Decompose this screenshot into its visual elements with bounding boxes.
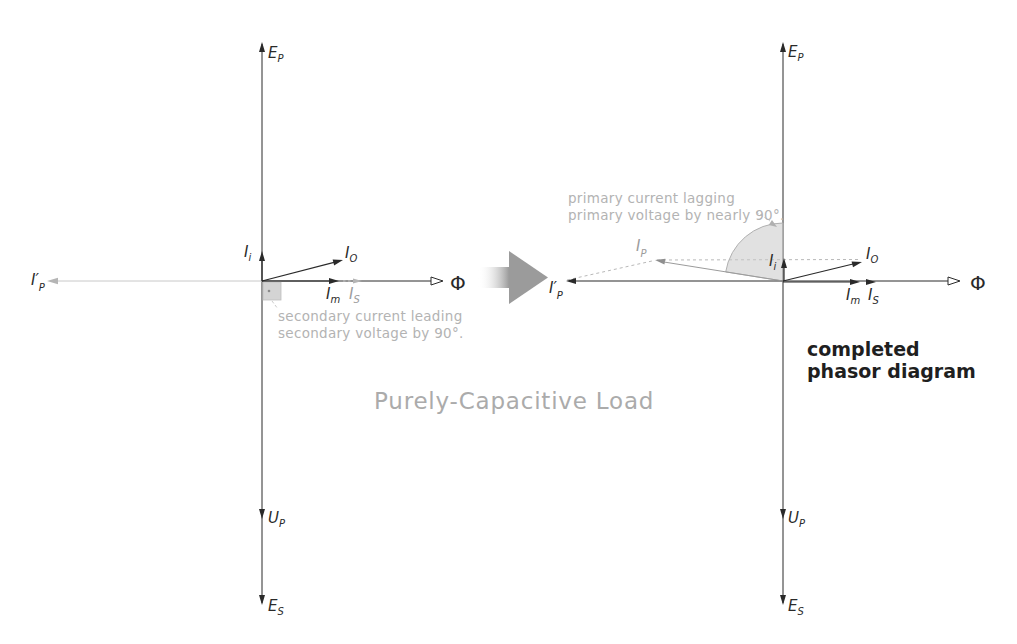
left-up-arrowhead-icon <box>259 509 265 519</box>
left-ep-label: EP <box>268 44 284 64</box>
phasor-diagram-figure: EP UP ES Φ I′P Ii IO Im IS secondary cur… <box>0 0 1017 644</box>
left-im-arrowhead-icon <box>329 278 339 284</box>
right-flux-arrowhead-icon <box>948 277 960 285</box>
left-flux-label: Φ <box>450 271 466 295</box>
right-io-arrowhead-icon <box>852 261 862 267</box>
left-es-arrowhead-icon <box>259 595 265 605</box>
right-ep-arrowhead-icon <box>780 42 786 52</box>
parallelogram-dash-left <box>567 261 652 280</box>
left-ep-arrowhead-icon <box>259 42 265 52</box>
figure-caption: Purely-Capacitive Load <box>374 388 654 414</box>
left-flux-arrowhead-icon <box>431 277 443 285</box>
right-ip-reflected-arrowhead-icon <box>566 278 576 284</box>
left-io-phasor <box>262 262 334 281</box>
right-es-label: ES <box>788 597 804 617</box>
right-angle-marker <box>263 282 281 300</box>
left-ip-reflected-arrowhead-icon <box>47 278 58 284</box>
right-ip-reflected-label: I′P <box>549 279 564 301</box>
left-es-label: ES <box>268 597 284 617</box>
left-diagram: EP UP ES Φ I′P Ii IO Im IS secondary cur… <box>31 42 466 617</box>
left-im-label: Im <box>326 285 340 305</box>
left-io-label: IO <box>345 244 357 264</box>
left-is-arrowhead-icon <box>353 279 362 284</box>
right-up-arrowhead-icon <box>780 509 786 519</box>
right-angle-dot-icon <box>268 290 271 293</box>
right-is-label: IS <box>868 286 879 306</box>
right-up-label: UP <box>788 509 806 529</box>
left-is-label: IS <box>349 285 360 305</box>
left-ii-label: Ii <box>244 243 251 263</box>
figure-canvas: EP UP ES Φ I′P Ii IO Im IS secondary cur… <box>0 0 1017 644</box>
right-ip-arrowhead-icon <box>655 259 665 265</box>
left-up-label: UP <box>268 509 286 529</box>
right-io-label: IO <box>866 245 878 265</box>
right-is-arrowhead-icon <box>866 279 876 285</box>
right-im-arrowhead-icon <box>850 279 860 285</box>
left-ip-reflected-label: I′P <box>31 271 46 293</box>
right-ep-label: EP <box>788 43 804 63</box>
transition-arrow-tail <box>478 267 509 288</box>
left-annotation-line1: secondary current leading <box>278 308 463 324</box>
left-annotation-line2: secondary voltage by 90°. <box>278 325 464 341</box>
right-flux-label: Φ <box>970 271 986 295</box>
right-caption-line2: phasor diagram <box>807 360 976 382</box>
transition-arrow <box>478 251 548 304</box>
right-es-arrowhead-icon <box>780 595 786 605</box>
right-caption-line1: completed <box>807 338 920 360</box>
transition-arrowhead-icon <box>509 251 548 304</box>
right-im-label: Im <box>846 286 860 306</box>
right-diagram: EP UP ES Φ I′P Ii IO Im IS IP primary cu… <box>549 42 986 617</box>
left-io-arrowhead-icon <box>333 260 343 266</box>
right-annotation-line2: primary voltage by nearly 90°. <box>568 207 785 223</box>
left-ii-arrowhead-icon <box>259 251 265 261</box>
right-io-phasor <box>783 264 853 281</box>
right-ip-label: IP <box>636 237 647 259</box>
right-annotation-line1: primary current lagging <box>568 190 735 206</box>
lag-angle-wedge <box>726 223 783 281</box>
